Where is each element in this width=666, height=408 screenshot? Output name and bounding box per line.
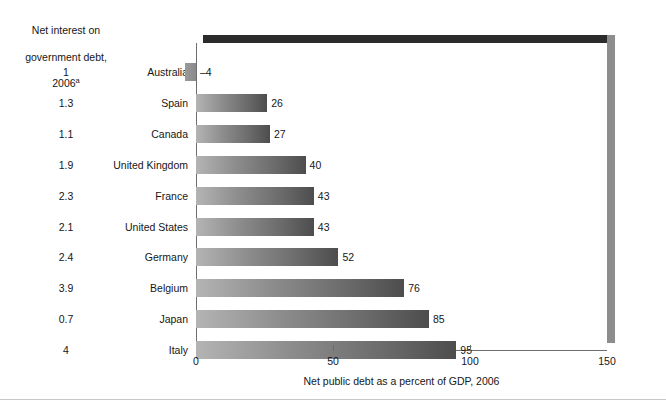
country-label: United Kingdom (104, 158, 188, 172)
bar-chart-figure: Net interest on government debt, 2006a 1… (0, 0, 666, 408)
country-label: Australia (104, 65, 188, 79)
interest-value: 4 (14, 343, 118, 357)
country-label: Belgium (104, 281, 188, 295)
plot-frame-right-band (607, 35, 615, 343)
interest-header-line2: government debt, (25, 51, 107, 63)
interest-header-line1: Net interest on (32, 24, 100, 36)
country-label: Japan (104, 312, 188, 326)
plot-area (196, 43, 607, 351)
interest-value: 2.3 (14, 189, 118, 203)
country-label: Canada (104, 127, 188, 141)
x-axis-caption: Net public debt as a percent of GDP, 200… (196, 375, 607, 387)
interest-value: 1.1 (14, 127, 118, 141)
country-label: Germany (104, 250, 188, 264)
country-label: United States (104, 220, 188, 234)
interest-value: 1 (14, 65, 118, 79)
country-label: Spain (104, 96, 188, 110)
plot-frame-top-band (203, 35, 607, 43)
footer-divider (0, 399, 666, 400)
x-axis-tick-label: 50 (313, 355, 353, 367)
country-label: Italy (104, 343, 188, 357)
x-axis-tick-label: 100 (450, 355, 490, 367)
interest-value: 1.3 (14, 96, 118, 110)
interest-value: 1.9 (14, 158, 118, 172)
interest-value: 2.1 (14, 220, 118, 234)
country-label: France (104, 189, 188, 203)
x-axis-tick-label: 150 (587, 355, 627, 367)
interest-value: 0.7 (14, 312, 118, 326)
interest-value: 3.9 (14, 281, 118, 295)
interest-value: 2.4 (14, 250, 118, 264)
